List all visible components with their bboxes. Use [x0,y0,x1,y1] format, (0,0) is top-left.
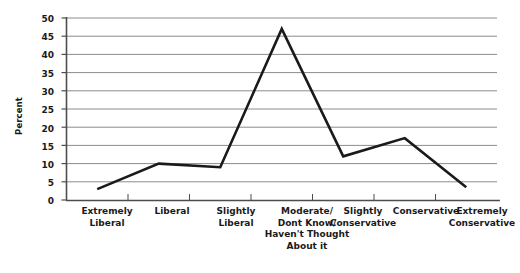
chart-container: Percent 50 45 40 35 30 25 20 15 10 5 0 E… [0,0,520,273]
plot-area [0,0,520,273]
gridlines [67,18,498,200]
